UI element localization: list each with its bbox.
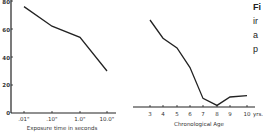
right-data-line bbox=[150, 20, 247, 105]
right-x-label: Chronological Age bbox=[174, 121, 225, 128]
caption-line: ir bbox=[253, 14, 261, 28]
left-data-line bbox=[24, 7, 107, 71]
x-tick-9: 9 bbox=[228, 111, 232, 117]
y-tick-80: 80 bbox=[2, 0, 10, 5]
x-tick-3: 10.0" bbox=[100, 116, 115, 122]
y-tick-40: 40 bbox=[2, 55, 10, 61]
y-tick-20: 20 bbox=[2, 82, 10, 88]
y-tick-60: 60 bbox=[2, 27, 10, 33]
x-tick-1: .10" bbox=[46, 116, 57, 122]
figure: 0 20 40 60 80 .01" .10" 1.0" 10.0" Expos… bbox=[0, 0, 267, 138]
caption-line: Fi bbox=[253, 0, 261, 14]
figure-caption: Fi ir a p bbox=[253, 0, 261, 56]
left-chart: 0 20 40 60 80 .01" .10" 1.0" 10.0" Expos… bbox=[2, 0, 116, 132]
y-tick-0: 0 bbox=[6, 110, 10, 116]
x-tick-6: 6 bbox=[188, 111, 192, 117]
x-tick-0: .01" bbox=[18, 116, 29, 122]
x-tick-2: 1.0" bbox=[74, 116, 85, 122]
x-tick-3: 3 bbox=[148, 111, 152, 117]
caption-line: a bbox=[253, 28, 261, 42]
x-unit-label: yrs. bbox=[253, 111, 263, 118]
x-tick-10: 10 bbox=[244, 111, 251, 117]
left-x-label: Exposure time in seconds bbox=[27, 125, 98, 132]
x-tick-4: 4 bbox=[161, 111, 165, 117]
caption-line: p bbox=[253, 42, 261, 56]
x-tick-5: 5 bbox=[175, 111, 179, 117]
x-tick-8: 8 bbox=[215, 111, 219, 117]
x-tick-7: 7 bbox=[201, 111, 205, 117]
right-chart: 3 4 5 6 7 8 9 10 yrs. Chronological Age bbox=[133, 20, 263, 128]
